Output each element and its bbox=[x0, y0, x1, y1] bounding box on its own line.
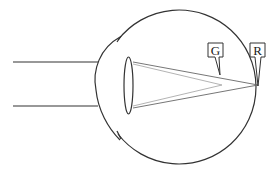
label-G: G bbox=[211, 43, 220, 58]
eyeball-outline bbox=[118, 10, 256, 164]
ray-R-top bbox=[133, 62, 258, 85]
eye-diagram: G R bbox=[0, 0, 280, 176]
cornea bbox=[95, 37, 120, 140]
ray-G-top bbox=[133, 64, 222, 85]
lens bbox=[124, 57, 133, 114]
ray-R-bottom bbox=[133, 85, 258, 108]
label-G-callout: G bbox=[208, 43, 223, 75]
label-R: R bbox=[253, 43, 262, 58]
ray-G-bottom bbox=[133, 85, 222, 106]
